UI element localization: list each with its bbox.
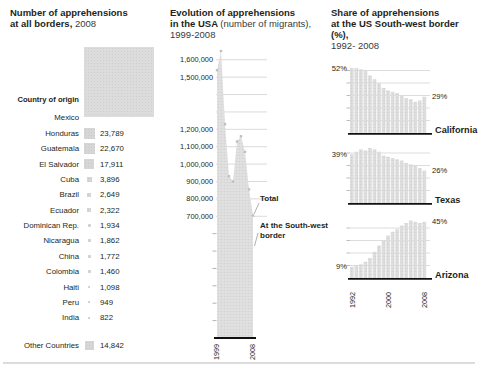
middle-title-line2: in the USA (number of migrants), <box>170 18 311 29</box>
share-bar <box>373 252 377 278</box>
share-bar <box>355 266 359 279</box>
left-title-line1: Number of apprehensions <box>10 7 128 18</box>
infographic-canvas: Number of apprehensions at all borders, … <box>0 0 478 369</box>
x-axis-label-2008: 2008 <box>420 292 429 308</box>
share-bar <box>391 92 395 133</box>
share-bar <box>418 101 422 134</box>
share-bar <box>359 264 363 278</box>
last-value-label: 29% <box>432 92 447 101</box>
total-data-point <box>228 175 230 177</box>
share-bar <box>368 148 372 203</box>
country-row-ecuador: Ecuador2,322 <box>0 203 170 218</box>
mexico-value-square <box>84 47 154 117</box>
country-label: Peru <box>0 295 79 310</box>
share-bar <box>413 166 417 204</box>
country-row-honduras: Honduras23,789 <box>0 126 170 141</box>
country-row-guatemala: Guatemala22,670 <box>0 141 170 156</box>
country-row-colombia: Colombia1,460 <box>0 264 170 279</box>
country-value-square <box>84 143 95 154</box>
country-row-brazil: Brazil2,649 <box>0 187 170 202</box>
share-bar <box>377 152 381 203</box>
country-row-china: China1,772 <box>0 249 170 264</box>
country-value: 17,911 <box>100 157 123 172</box>
country-value: 1,772 <box>100 249 120 264</box>
share-bar <box>386 157 390 203</box>
country-label: Other Countries <box>0 338 79 353</box>
y-axis-label: 800,000 <box>186 194 213 203</box>
page-bottom-divider <box>3 362 475 364</box>
right-title-line1: Share of apprehensions <box>331 7 478 18</box>
share-bar <box>395 93 399 133</box>
share-bar <box>368 76 372 134</box>
country-value-square <box>84 159 94 169</box>
share-bar <box>409 99 413 133</box>
country-label: Cuba <box>0 172 79 187</box>
country-row-haiti: Haiti1,098 <box>0 280 170 295</box>
share-bar <box>350 267 354 278</box>
y-axis-label: 1,600,000 <box>180 55 213 64</box>
share-bar <box>364 151 368 204</box>
callout-southwest-pointer <box>255 233 259 246</box>
country-value-square <box>84 128 95 139</box>
total-data-point <box>232 180 234 182</box>
share-bar <box>359 149 363 203</box>
state-label-arizona: Arizona <box>435 270 470 280</box>
country-row-el-salvador: El Salvador17,911 <box>0 157 170 172</box>
x-axis-label-1992: 1992 <box>348 292 357 308</box>
share-bar <box>400 161 404 204</box>
state-label-texas: Texas <box>435 195 460 205</box>
country-value: 22,670 <box>100 141 124 156</box>
share-bar <box>422 222 426 278</box>
x-axis-label-2008: 2008 <box>248 344 257 360</box>
first-value-label: 9% <box>336 262 347 271</box>
country-label: India <box>0 310 79 325</box>
country-value: 23,789 <box>100 126 124 141</box>
country-value: 822 <box>100 310 113 325</box>
first-value-label: 39% <box>332 150 347 159</box>
country-value-square <box>88 270 91 273</box>
total-data-point <box>236 140 238 142</box>
y-axis-label: 900,000 <box>186 177 213 186</box>
share-bar <box>364 262 368 278</box>
share-bar <box>395 159 399 203</box>
country-value: 1,460 <box>100 264 120 279</box>
share-bar <box>350 68 354 133</box>
middle-title-line1: Evolution of apprehensions <box>170 7 311 18</box>
total-data-point <box>244 151 246 153</box>
share-bar <box>373 149 377 203</box>
share-bar <box>418 168 422 203</box>
share-bar <box>404 223 408 278</box>
share-bar <box>368 258 372 278</box>
callout-total-label: Total <box>260 194 279 204</box>
country-label: Guatemala <box>0 141 79 156</box>
share-mini-charts: 52%29%California39%26%Texas9%45%Arizona1… <box>320 42 478 332</box>
right-title-line2: at the US South-west border (%), <box>331 18 478 40</box>
country-of-origin-axis-label: Country of origin <box>0 95 79 104</box>
country-value-square <box>88 317 90 319</box>
share-bar <box>350 154 354 203</box>
share-bar <box>404 163 408 203</box>
share-bar <box>386 236 390 279</box>
left-title-line2: at all borders, 2008 <box>10 18 128 29</box>
share-bar <box>391 232 395 278</box>
share-bar <box>395 229 399 278</box>
country-value: 3,896 <box>100 172 120 187</box>
country-label: Dominican Rep. <box>0 218 79 233</box>
country-value: 1,098 <box>100 280 120 295</box>
share-bar <box>422 97 426 133</box>
y-axis-label: 700,000 <box>186 212 213 221</box>
country-value-square <box>88 286 90 288</box>
x-axis-label-1999: 1999 <box>212 344 221 360</box>
country-value: 14,842 <box>100 338 124 353</box>
share-bar <box>413 102 417 133</box>
total-data-point <box>248 188 250 190</box>
country-value-square <box>88 255 91 258</box>
x-axis-label-2000: 2000 <box>384 292 393 308</box>
left-chart-title: Number of apprehensions at all borders, … <box>10 7 128 29</box>
share-bar <box>377 83 381 133</box>
share-bar <box>382 156 386 204</box>
country-value-square <box>87 193 91 197</box>
country-label-mexico: Mexico <box>0 110 79 125</box>
callout-total-pointer <box>254 203 259 214</box>
y-axis-label: 1,500,000 <box>180 73 213 82</box>
